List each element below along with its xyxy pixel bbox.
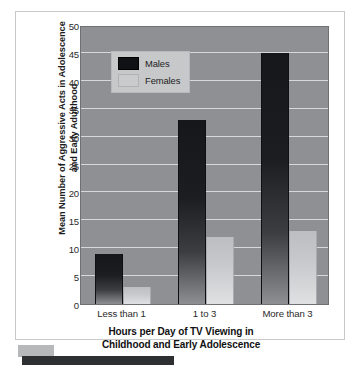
figure-card: Mean Number of Aggressive Acts in Adoles… <box>15 11 345 340</box>
bar-males-1-to-3 <box>178 120 206 304</box>
bar-group-more-than-3 <box>247 27 329 304</box>
legend: Males Females <box>111 51 190 93</box>
y-axis-tick-labels: 05101520253035404550 <box>57 26 79 305</box>
bar-males-more-than-3 <box>261 53 289 304</box>
y-tick-label: 15 <box>69 216 79 227</box>
bar-males-less-than-1 <box>95 254 123 304</box>
legend-label-females: Females <box>145 75 180 86</box>
y-tick-label: 40 <box>69 76 79 87</box>
x-axis-tick-labels: Less than 11 to 3More than 3 <box>80 308 329 324</box>
y-tick-label: 25 <box>69 160 79 171</box>
caption-bar <box>22 356 174 365</box>
plot-area: Males Females <box>80 26 329 305</box>
legend-entry-females: Females <box>118 74 180 87</box>
y-tick-label: 20 <box>69 188 79 199</box>
y-tick-label: 0 <box>74 300 79 311</box>
legend-swatch-males-icon <box>118 57 139 70</box>
x-axis-title-line1: Hours per Day of TV Viewing in <box>40 325 322 338</box>
bar-females-less-than-1 <box>123 287 151 304</box>
y-tick-label: 5 <box>74 272 79 283</box>
x-tick-label: Less than 1 <box>97 308 146 319</box>
y-tick-label: 35 <box>69 104 79 115</box>
y-tick-label: 30 <box>69 132 79 143</box>
y-tick-label: 10 <box>69 244 79 255</box>
bar-females-more-than-3 <box>289 231 317 304</box>
x-tick-label: 1 to 3 <box>193 308 216 319</box>
caption-artifact <box>0 345 359 363</box>
legend-label-males: Males <box>145 58 170 69</box>
legend-swatch-females-icon <box>118 74 139 87</box>
legend-entry-males: Males <box>118 57 180 70</box>
y-tick-label: 50 <box>69 21 79 32</box>
bar-females-1-to-3 <box>206 237 234 304</box>
x-tick-label: More than 3 <box>262 308 312 319</box>
y-tick-label: 45 <box>69 48 79 59</box>
